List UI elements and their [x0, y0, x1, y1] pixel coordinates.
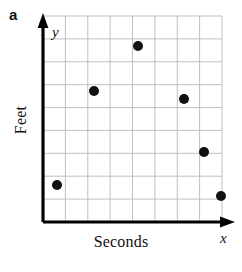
y-axis-variable-label: y	[52, 25, 59, 40]
scatter-plot-figure: a	[0, 0, 242, 272]
data-point	[89, 86, 99, 96]
data-point	[216, 191, 226, 201]
y-axis-title: Feet	[11, 76, 31, 164]
x-axis-arrowhead	[220, 217, 235, 228]
data-point	[52, 180, 62, 190]
data-point	[133, 41, 143, 51]
data-point	[179, 94, 189, 104]
x-axis-title: Seconds	[0, 232, 242, 252]
data-point	[199, 147, 209, 157]
